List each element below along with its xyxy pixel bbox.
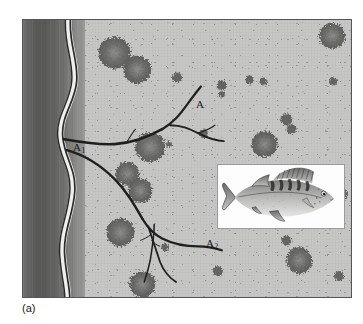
fish-inset-box bbox=[217, 164, 345, 229]
stream-label-a2: A2 bbox=[206, 238, 218, 249]
stream-network-icon bbox=[23, 20, 351, 297]
figure-caption: (a) bbox=[22, 303, 35, 314]
stream-label-a1: A1 bbox=[73, 142, 85, 153]
figure-panel: A A1 A2 bbox=[22, 19, 352, 298]
fish-icon bbox=[218, 165, 344, 228]
stream-label-a: A bbox=[196, 99, 204, 110]
